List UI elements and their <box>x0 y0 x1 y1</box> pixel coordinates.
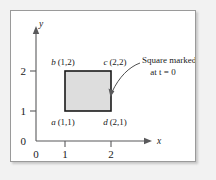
figure-root: y x 2 1 0 0 1 2 b(1,2) c(2,2) a(1,1) <box>0 0 216 180</box>
x-tick-label-2: 2 <box>108 148 114 160</box>
vertex-coords-b: (1,2) <box>58 57 75 67</box>
y-axis-label: y <box>38 19 44 29</box>
vertex-letter-d: d <box>103 117 108 127</box>
x-axis-label: x <box>156 136 162 146</box>
coordinate-plot: y x 2 1 0 0 1 2 b(1,2) c(2,2) a(1,1) <box>11 11 195 161</box>
callout-line-1: Square marked <box>142 55 195 65</box>
y-tick-label-1: 1 <box>21 105 27 117</box>
vertex-coords-a: (1,1) <box>58 117 75 127</box>
marked-square <box>65 71 111 111</box>
vertex-coords-d: (2,1) <box>110 117 127 127</box>
y-tick-label-2: 2 <box>21 65 27 77</box>
x-axis-arrowhead <box>144 138 152 144</box>
vertex-letter-b: b <box>51 57 56 67</box>
vertex-label-d: d(2,1) <box>103 117 127 127</box>
vertex-coords-c: (2,2) <box>109 57 126 67</box>
x-tick-label-1: 1 <box>62 148 68 160</box>
vertex-label-c: c(2,2) <box>103 57 126 67</box>
vertex-letter-c: c <box>103 57 107 67</box>
vertex-label-b: b(1,2) <box>51 57 75 67</box>
figure-panel: y x 2 1 0 0 1 2 b(1,2) c(2,2) a(1,1) <box>10 10 196 162</box>
y-tick-label-0: 0 <box>21 135 27 147</box>
callout-line-2: at t = 0 <box>150 67 176 77</box>
vertex-label-a: a(1,1) <box>51 117 75 127</box>
callout-leader-line <box>112 63 140 92</box>
vertex-letter-a: a <box>51 117 56 127</box>
x-tick-label-0: 0 <box>33 148 39 160</box>
